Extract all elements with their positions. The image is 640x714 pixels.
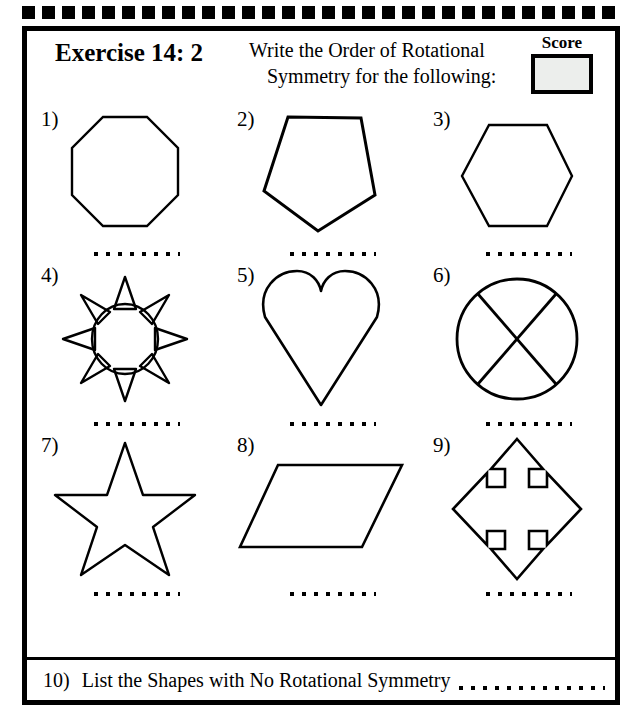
answer-dotted-line [486,422,572,426]
worksheet-frame: Exercise 14: 2 Write the Order of Rotati… [22,26,620,705]
question-item-2: 2) [223,107,419,263]
answer-dotted-line [94,592,180,596]
question-item-7: 7) [27,433,223,603]
answer-dotted-line [486,252,572,256]
answer-line-5[interactable] [223,415,419,433]
question-item-4: 4) [27,263,223,433]
question-number-5: 5) [237,265,255,286]
questions-row-3: 7) 8) [27,433,615,603]
answer-line-2[interactable] [223,245,419,263]
answer-dotted-line [290,252,376,256]
question-item-5: 5) [223,263,419,433]
answer-line-7[interactable] [27,585,223,603]
question-number-9: 9) [433,435,451,456]
score-area: Score [523,33,601,94]
score-input-box[interactable] [531,54,593,94]
top-dashed-rule [22,6,620,19]
answer-line-6[interactable] [419,415,615,433]
question-item-1: 1) [27,107,223,263]
instruction-text: Write the Order of Rotational Symmetry f… [249,37,539,89]
question-item-6: 6) [419,263,615,433]
question-10-text: List the Shapes with No Rotational Symme… [70,669,451,692]
question-number-10: 10) [27,669,70,692]
questions-grid: 1) 2) [27,107,615,603]
worksheet-page: Exercise 14: 2 Write the Order of Rotati… [0,0,640,714]
questions-row-2: 4) [27,263,615,433]
instruction-line-1: Write the Order of Rotational [249,39,485,61]
question-number-2: 2) [237,109,255,130]
questions-row-1: 1) 2) [27,107,615,263]
answer-line-4[interactable] [27,415,223,433]
question-number-4: 4) [41,265,59,286]
answer-dotted-line [94,252,180,256]
worksheet-header: Exercise 14: 2 Write the Order of Rotati… [27,31,615,107]
page-title: Exercise 14: 2 [55,39,203,67]
answer-dotted-line [290,592,376,596]
score-label: Score [523,33,601,52]
question-number-6: 6) [433,265,451,286]
answer-dotted-line [94,422,180,426]
answer-line-3[interactable] [419,245,615,263]
question-item-9: 9) [419,433,615,603]
answer-dotted-line [486,592,572,596]
question-item-10: 10) List the Shapes with No Rotational S… [27,657,615,700]
answer-line-1[interactable] [27,245,223,263]
question-number-7: 7) [41,435,59,456]
question-number-8: 8) [237,435,255,456]
answer-line-8[interactable] [223,585,419,603]
answer-dotted-line [290,422,376,426]
question-number-1: 1) [41,109,59,130]
question-item-8: 8) [223,433,419,603]
answer-line-9[interactable] [419,585,615,603]
answer-line-10[interactable] [459,686,605,690]
question-item-3: 3) [419,107,615,263]
instruction-line-2: Symmetry for the following: [249,63,539,89]
question-number-3: 3) [433,109,451,130]
